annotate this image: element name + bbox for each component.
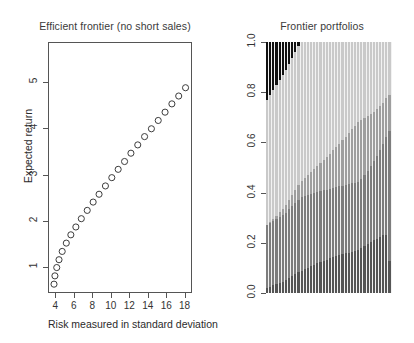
data-point bbox=[109, 175, 115, 181]
weight-segment bbox=[301, 42, 303, 181]
data-point bbox=[63, 240, 69, 246]
weight-segment bbox=[288, 200, 290, 209]
data-point bbox=[78, 216, 84, 222]
data-point bbox=[115, 166, 121, 172]
weight-segment bbox=[294, 190, 296, 203]
weight-segment bbox=[307, 175, 309, 195]
weight-segment bbox=[275, 42, 277, 85]
weight-segment bbox=[376, 239, 378, 293]
data-point bbox=[56, 257, 62, 263]
weight-segment bbox=[269, 42, 271, 95]
weight-segment bbox=[301, 271, 303, 293]
weight-segment bbox=[382, 144, 384, 235]
weight-segment bbox=[319, 262, 321, 293]
data-point bbox=[52, 273, 58, 279]
right-chart-title: Frontier portfolios bbox=[230, 20, 414, 32]
weight-segment bbox=[332, 150, 334, 188]
data-point bbox=[176, 93, 182, 99]
weight-segment bbox=[294, 274, 296, 293]
x-tick-mark bbox=[148, 293, 149, 298]
right-y-tick-label: 0.0 bbox=[246, 280, 257, 304]
weight-segment bbox=[385, 98, 387, 137]
data-point bbox=[148, 126, 154, 132]
weight-segment bbox=[379, 42, 381, 106]
efficient-frontier-panel: Efficient frontier (no short sales) 4681… bbox=[0, 0, 230, 343]
weight-segment bbox=[370, 42, 372, 114]
weight-segment bbox=[304, 269, 306, 293]
weight-segment bbox=[323, 190, 325, 260]
weight-segment bbox=[313, 169, 315, 193]
y-tick-mark bbox=[43, 82, 48, 83]
weight-segment bbox=[360, 42, 362, 120]
weight-segment bbox=[385, 235, 387, 293]
data-point bbox=[182, 85, 188, 91]
weight-segment bbox=[388, 42, 390, 95]
weight-segment bbox=[335, 256, 337, 293]
weight-segment bbox=[373, 42, 375, 112]
weight-segment bbox=[341, 42, 343, 140]
weight-segment bbox=[304, 42, 306, 178]
right-y-tick-mark bbox=[261, 142, 266, 143]
x-tick-label: 18 bbox=[173, 300, 197, 311]
data-point bbox=[155, 117, 161, 123]
weight-segment bbox=[329, 258, 331, 293]
weight-segment bbox=[275, 219, 277, 284]
data-point bbox=[68, 232, 74, 238]
data-point bbox=[96, 191, 102, 197]
weight-segment bbox=[351, 252, 353, 293]
weight-segment bbox=[335, 187, 337, 256]
weight-segment bbox=[297, 272, 299, 293]
weight-segment bbox=[307, 195, 309, 268]
weight-segment bbox=[338, 42, 340, 144]
x-axis-title: Risk measured in standard deviation bbox=[48, 318, 192, 330]
weight-segment bbox=[332, 42, 334, 150]
data-point bbox=[73, 224, 79, 230]
weight-segment bbox=[367, 244, 369, 293]
weight-segment bbox=[288, 42, 290, 64]
weight-segment bbox=[348, 42, 350, 133]
x-tick-mark bbox=[55, 293, 56, 298]
weight-segment bbox=[294, 52, 296, 190]
weight-segment bbox=[329, 154, 331, 189]
weight-segment bbox=[348, 253, 350, 294]
weight-segment bbox=[388, 261, 390, 293]
data-point bbox=[84, 207, 90, 213]
weight-segment bbox=[297, 46, 299, 185]
x-tick-mark bbox=[129, 293, 130, 298]
weight-segment bbox=[329, 42, 331, 154]
y-tick-label: 2 bbox=[28, 210, 39, 230]
weight-segment bbox=[370, 166, 372, 242]
right-y-tick-mark bbox=[261, 42, 266, 43]
weight-segment bbox=[285, 70, 287, 206]
weight-segment bbox=[338, 255, 340, 293]
weight-segment bbox=[272, 221, 274, 285]
data-point bbox=[90, 199, 96, 205]
weight-segment bbox=[285, 280, 287, 293]
weight-segment bbox=[341, 254, 343, 293]
scatter-points-layer bbox=[49, 43, 191, 292]
x-tick-mark bbox=[166, 293, 167, 298]
portfolio-column bbox=[388, 42, 391, 293]
weight-segment bbox=[301, 181, 303, 197]
weight-segment bbox=[323, 160, 325, 190]
weight-segment bbox=[297, 200, 299, 273]
weight-segment bbox=[351, 129, 353, 183]
weight-segment bbox=[345, 253, 347, 293]
y-tick-mark bbox=[43, 221, 48, 222]
x-tick-mark bbox=[92, 293, 93, 298]
weight-segment bbox=[301, 197, 303, 271]
y-tick-mark bbox=[43, 267, 48, 268]
weight-segment bbox=[373, 240, 375, 293]
data-point bbox=[142, 134, 148, 140]
weight-segment bbox=[319, 163, 321, 191]
weight-segment bbox=[310, 172, 312, 194]
weight-segment bbox=[285, 42, 287, 70]
weight-segment bbox=[367, 116, 369, 170]
weight-segment bbox=[269, 95, 271, 223]
weight-segment bbox=[269, 287, 271, 293]
weight-segment bbox=[279, 42, 281, 80]
weight-segment bbox=[266, 100, 268, 226]
weight-segment bbox=[326, 157, 328, 190]
x-tick-mark bbox=[74, 293, 75, 298]
weight-segment bbox=[360, 120, 362, 178]
